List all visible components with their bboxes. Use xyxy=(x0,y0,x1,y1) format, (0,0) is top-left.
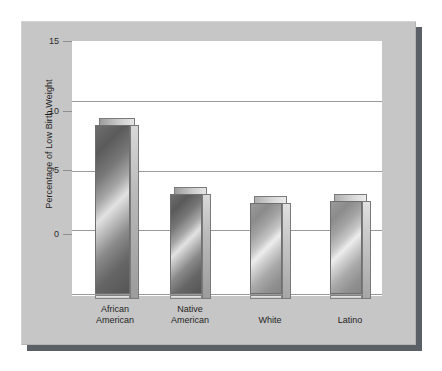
bar-base-face xyxy=(330,295,362,299)
x-tick-label-latino: Latino xyxy=(318,315,382,326)
bar-base-face xyxy=(95,295,130,299)
x-label-line-1: African xyxy=(83,304,147,315)
y-tick-stub-10 xyxy=(63,111,72,112)
bar-side-face xyxy=(130,125,139,299)
y-tick-stub-5 xyxy=(63,170,72,171)
x-tick-label-white: White xyxy=(238,315,302,326)
chart-panel: Percentage of Low Birth Weight 15 10 5 0 xyxy=(21,21,416,345)
y-tick-label-5: 5 xyxy=(37,166,59,175)
bar-native-american[interactable] xyxy=(170,188,202,294)
y-axis-title: Percentage of Low Birth Weight xyxy=(44,54,54,234)
bar-african-american[interactable] xyxy=(95,119,130,294)
bar-front-face xyxy=(330,201,362,294)
x-label-line-2: American xyxy=(83,315,147,326)
y-tick-label-0: 0 xyxy=(37,230,59,239)
x-tick-label-african-american: African American xyxy=(83,304,147,326)
x-tick-label-native-american: Native American xyxy=(158,304,222,326)
x-label-line-1: Latino xyxy=(318,315,382,326)
bar-latino[interactable] xyxy=(330,195,362,294)
bar-base-face xyxy=(250,295,282,299)
bar-side-face xyxy=(202,194,211,299)
bar-side-face xyxy=(282,203,291,299)
y-tick-label-15: 15 xyxy=(37,37,59,46)
chart-figure: Percentage of Low Birth Weight 15 10 5 0 xyxy=(0,0,442,371)
x-label-line-2: American xyxy=(158,315,222,326)
y-tick-stub-0 xyxy=(63,234,72,235)
x-label-line-1: Native xyxy=(158,304,222,315)
bar-front-face xyxy=(250,203,282,294)
y-tick-label-10: 10 xyxy=(37,107,59,116)
gridline-15 xyxy=(72,101,382,102)
bar-front-face xyxy=(95,125,130,294)
y-tick-stub-15 xyxy=(63,41,72,42)
bar-base-face xyxy=(170,295,202,299)
plot-canvas xyxy=(72,41,382,296)
x-label-line-1: White xyxy=(238,315,302,326)
bar-front-face xyxy=(170,194,202,294)
bar-side-face xyxy=(362,201,371,299)
bar-white[interactable] xyxy=(250,197,282,294)
